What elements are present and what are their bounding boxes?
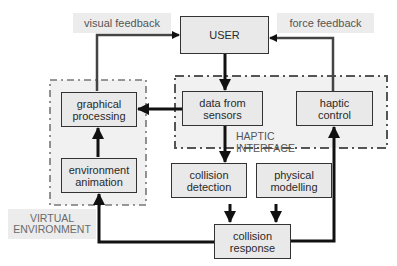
haptic-control-text-line1: haptic	[320, 97, 349, 109]
environment-animation-node: environment animation	[61, 158, 137, 193]
graphical-processing-node: graphical processing	[61, 92, 137, 127]
user-node: USER	[180, 16, 269, 54]
user-node-text: USER	[209, 29, 240, 41]
collision-detection-node: collision detection	[171, 163, 247, 198]
edge-force-feedback	[270, 38, 333, 91]
graphical-processing-text-line2: processing	[72, 110, 125, 122]
collision-response-node: collision response	[214, 224, 291, 259]
physical-modelling-node: physical modelling	[256, 163, 332, 198]
data-from-sensors-node: data from sensors	[182, 91, 263, 126]
edge-visual-feedback	[97, 35, 179, 91]
physical-modelling-text-line1: physical	[274, 169, 314, 181]
collision-response-text-line1: collision	[233, 230, 272, 242]
collision-detection-text-line1: collision	[189, 169, 228, 181]
environment-animation-text-line1: environment	[69, 164, 130, 176]
collision-detection-text-line2: detection	[187, 181, 232, 193]
haptic-interface-label: HAPTIC INTERFACE	[236, 130, 336, 154]
data-from-sensors-text-line2: sensors	[203, 109, 242, 121]
haptic-control-text-line2: control	[318, 109, 351, 121]
data-from-sensors-text-line1: data from	[199, 97, 245, 109]
collision-response-text-line2: response	[230, 242, 275, 254]
physical-modelling-text-line2: modelling	[270, 181, 317, 193]
edge-response-to-animation	[99, 194, 214, 242]
haptic-control-node: haptic control	[296, 91, 373, 126]
graphical-processing-text-line1: graphical	[77, 98, 122, 110]
environment-animation-text-line2: animation	[75, 176, 123, 188]
